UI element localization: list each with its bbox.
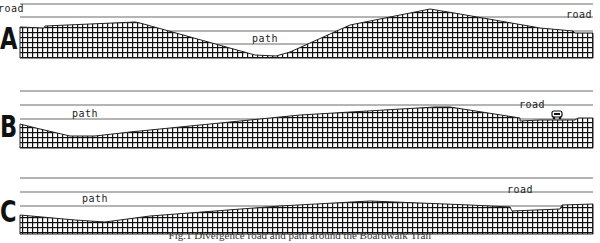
car-icon — [552, 111, 562, 119]
label-road-a-left: road — [0, 3, 24, 14]
label-path-b: path — [72, 108, 98, 119]
label-road-b: road — [519, 99, 545, 110]
panel-letter-a: A — [0, 24, 17, 54]
label-path-c: path — [82, 193, 108, 204]
figure-caption: Fig.1 Divergence road and path around th… — [0, 229, 600, 241]
label-road-a-right: road — [566, 9, 592, 20]
label-road-c: road — [507, 184, 533, 195]
panel-letter-b: B — [0, 112, 17, 142]
panel-b-profile — [20, 91, 593, 148]
panel-letter-c: C — [0, 197, 17, 227]
panel-a-profile — [20, 4, 593, 58]
label-path-a: path — [252, 33, 278, 44]
cross-section-diagram — [0, 0, 600, 243]
